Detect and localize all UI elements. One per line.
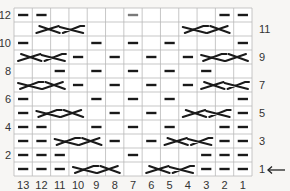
column-label: 11 xyxy=(54,179,65,191)
left-row-labels: 12108642 xyxy=(0,9,11,161)
column-label: 13 xyxy=(17,179,29,191)
left-row-label: 4 xyxy=(5,121,11,133)
left-row-label: 8 xyxy=(5,65,11,77)
right-row-label: 11 xyxy=(259,23,270,35)
right-row-label: 9 xyxy=(259,51,265,63)
right-row-labels: 1197531 xyxy=(259,23,270,175)
column-label: 1 xyxy=(240,179,246,191)
column-label: 8 xyxy=(112,179,118,191)
column-label: 2 xyxy=(221,179,227,191)
column-label: 3 xyxy=(203,179,209,191)
column-label: 12 xyxy=(35,179,47,191)
left-row-label: 12 xyxy=(0,9,11,21)
column-label: 5 xyxy=(167,179,173,191)
left-row-label: 2 xyxy=(5,149,11,161)
left-row-label: 10 xyxy=(0,37,11,49)
column-label: 6 xyxy=(148,179,154,191)
right-row-label: 7 xyxy=(259,79,265,91)
start-arrow-icon xyxy=(268,167,285,174)
column-labels: 13121110987654321 xyxy=(17,179,246,191)
column-label: 9 xyxy=(93,179,99,191)
column-label: 4 xyxy=(185,179,191,191)
left-row-label: 6 xyxy=(5,93,11,105)
right-row-label: 1 xyxy=(259,163,265,175)
column-label: 10 xyxy=(72,179,84,191)
right-row-label: 5 xyxy=(259,107,265,119)
knitting-chart: 13121110987654321 12108642 1197531 xyxy=(0,0,290,191)
column-label: 7 xyxy=(130,179,136,191)
right-row-label: 3 xyxy=(259,135,265,147)
